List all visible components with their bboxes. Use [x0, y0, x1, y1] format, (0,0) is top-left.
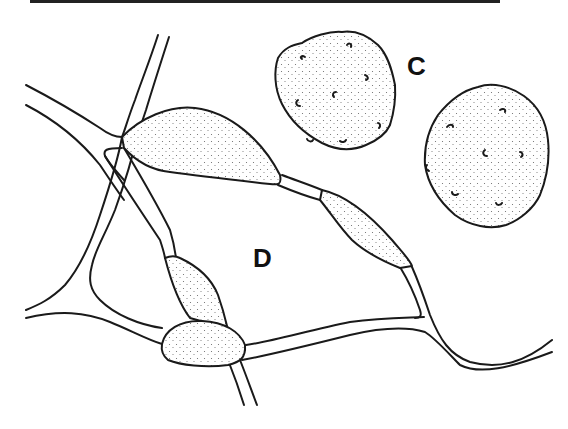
top-rule	[30, 0, 500, 3]
panel-label-c: C	[407, 53, 426, 79]
spore-upper	[275, 32, 395, 150]
swollen-cell-lower	[162, 321, 245, 366]
swollen-cell-middle-left	[165, 257, 228, 331]
swollen-cell-upper	[122, 108, 281, 185]
spore-lower	[425, 85, 549, 227]
illustration-canvas	[0, 0, 568, 429]
swollen-cell-right	[320, 190, 412, 268]
panel-label-d: D	[253, 245, 272, 271]
